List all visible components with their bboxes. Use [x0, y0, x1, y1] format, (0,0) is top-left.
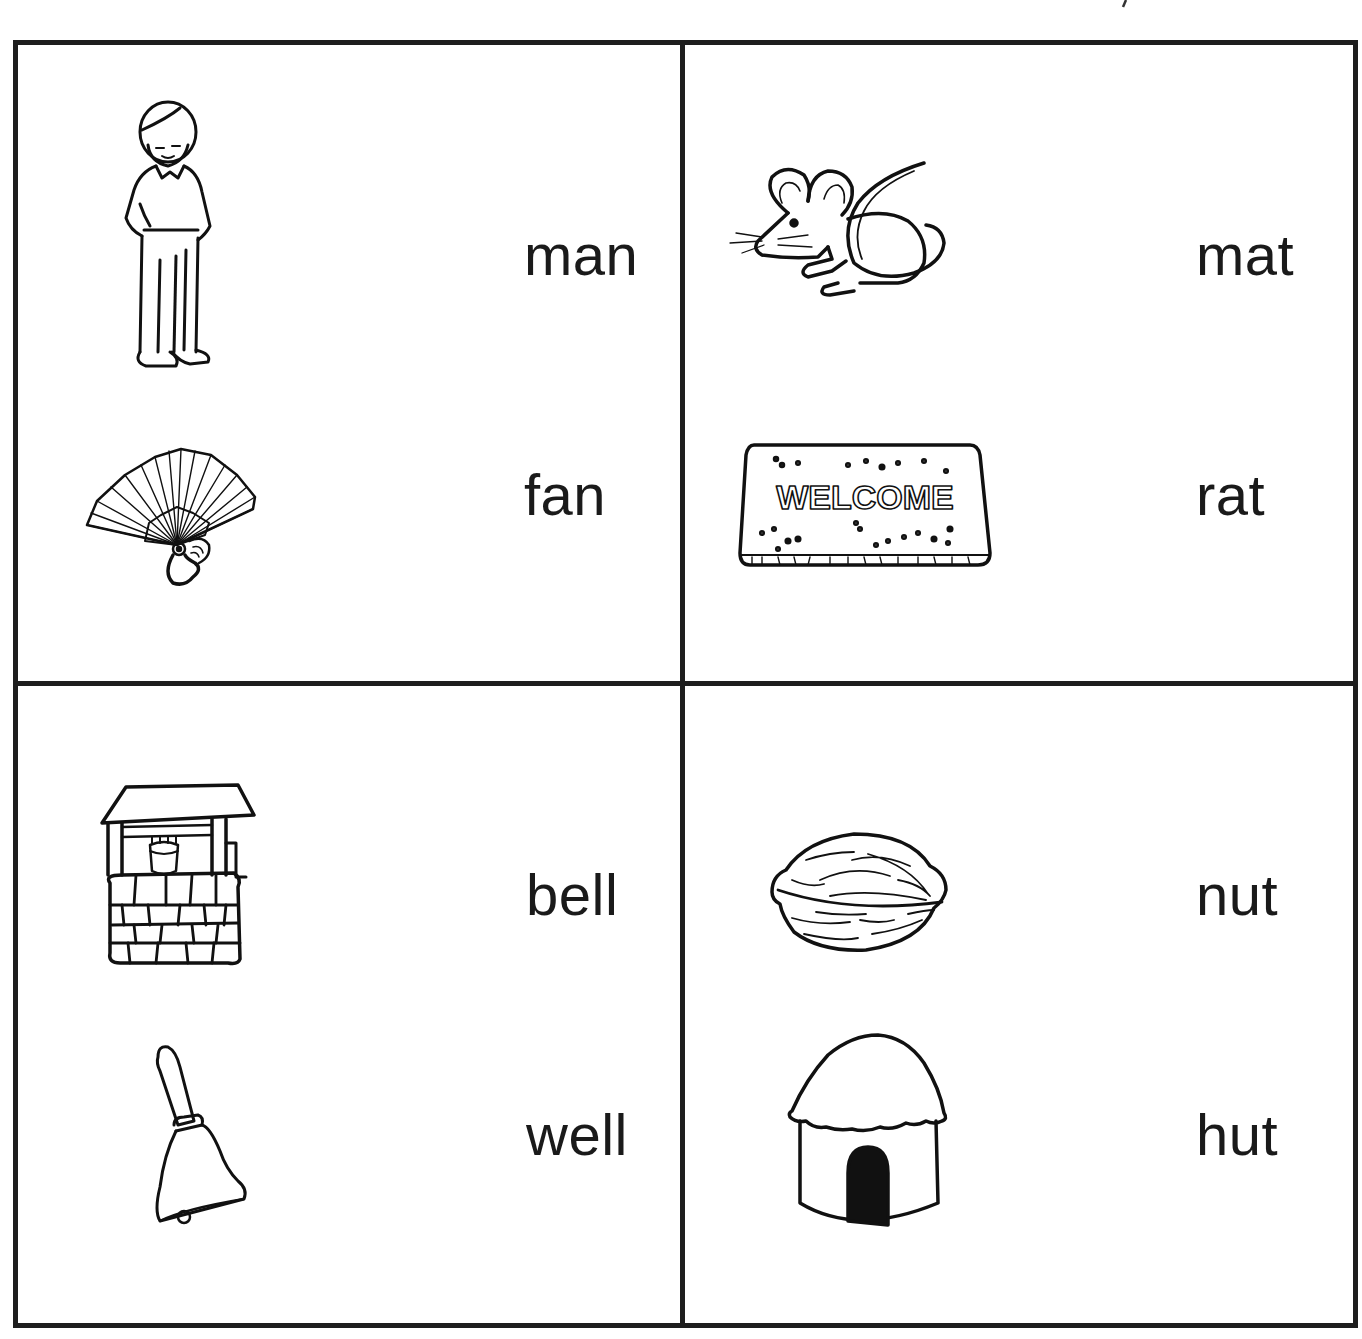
word-mat: mat [1196, 226, 1294, 284]
nut-icon [770, 830, 948, 955]
word-rat: rat [1196, 466, 1265, 524]
fan-icon [85, 445, 260, 590]
man-icon [120, 100, 215, 372]
word-bell: bell [526, 866, 618, 924]
welcome-mat-icon: WELCOME [738, 441, 992, 574]
word-hut: hut [1196, 1106, 1278, 1164]
rat-icon [728, 163, 954, 298]
word-nut: nut [1196, 866, 1278, 924]
horizontal-divider [13, 681, 1358, 686]
word-fan: fan [524, 466, 606, 524]
welcome-text: WELCOME [776, 478, 954, 516]
hut-icon [786, 1035, 950, 1230]
stray-mark [1120, 0, 1130, 8]
word-well: well [526, 1106, 628, 1164]
word-man: man [524, 226, 638, 284]
bell-icon [154, 1045, 254, 1227]
well-icon [100, 783, 255, 965]
